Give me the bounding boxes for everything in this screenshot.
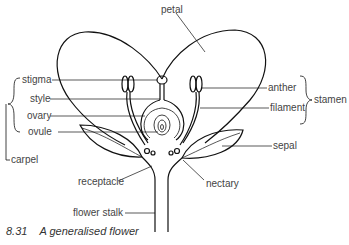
label-flower-stalk: flower stalk: [73, 207, 123, 218]
label-style: style: [30, 93, 51, 104]
label-petal: petal: [161, 4, 183, 15]
label-carpel: carpel: [11, 154, 38, 165]
label-anther: anther: [268, 82, 296, 93]
figure-number: 8.31: [6, 225, 27, 237]
label-stamen: stamen: [314, 94, 347, 105]
figure-title: A generalised flower: [39, 225, 138, 237]
label-filament: filament: [270, 102, 305, 113]
label-ovary: ovary: [27, 110, 51, 121]
figure-caption: 8.31A generalised flower: [6, 225, 139, 237]
petal-right: [162, 30, 266, 143]
petal-left: [57, 32, 162, 145]
label-nectary: nectary: [206, 178, 239, 189]
stigma-shape: [157, 76, 167, 84]
flower-diagram: [0, 0, 349, 245]
label-receptacle: receptacle: [78, 176, 124, 187]
label-ovule: ovule: [28, 126, 52, 137]
label-stigma: stigma: [22, 74, 51, 85]
label-sepal: sepal: [273, 140, 297, 151]
